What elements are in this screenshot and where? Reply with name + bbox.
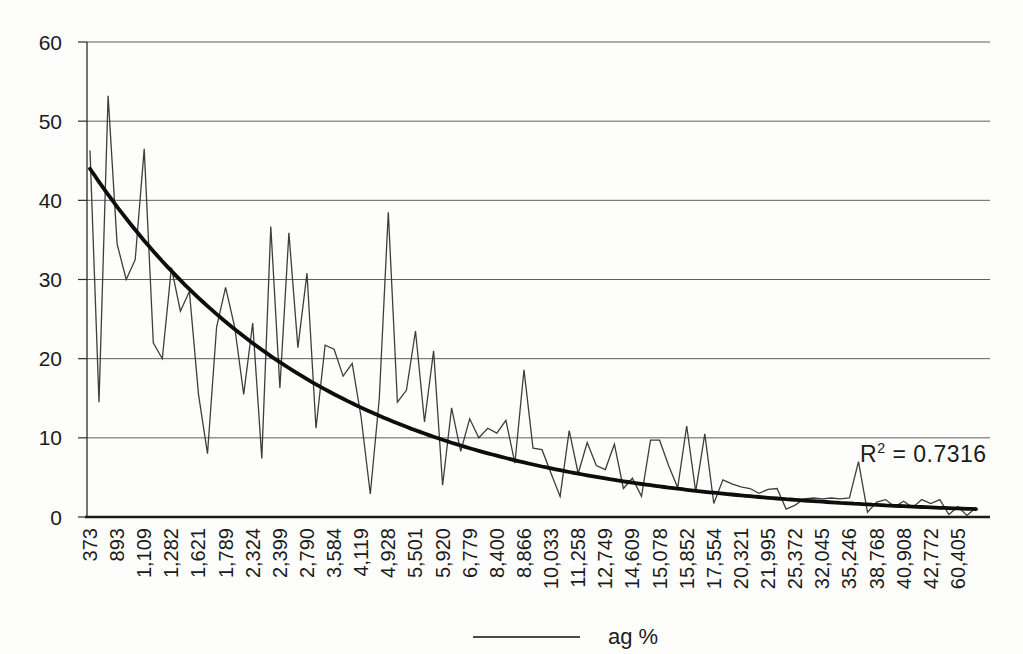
x-tick-label-373: 373 — [79, 528, 101, 561]
y-tick-label-50: 50 — [39, 110, 62, 133]
x-tick-label-1789: 1,789 — [215, 528, 237, 578]
y-tick-label-30: 30 — [39, 268, 62, 291]
y-tick-label-40: 40 — [39, 189, 62, 212]
x-tick-label-2790: 2,790 — [296, 528, 318, 578]
r-squared-annotation: R2 = 0.7316 — [860, 441, 987, 468]
x-tick-label-4928: 4,928 — [377, 528, 399, 578]
r-squared-value: 0.7316 — [913, 441, 986, 467]
x-tick-label-893: 893 — [106, 528, 128, 561]
x-tick-label-2399: 2,399 — [269, 528, 291, 578]
x-tick-label-3584: 3,584 — [323, 528, 345, 578]
x-tick-label-25372: 25,372 — [784, 528, 806, 589]
y-tick-label-10: 10 — [39, 426, 62, 449]
chart-canvas: 01020304050603738931,1091,2821,6211,7892… — [0, 0, 1023, 654]
legend-series-label: ag % — [608, 624, 658, 650]
x-tick-label-6779: 6,779 — [459, 528, 481, 578]
x-tick-label-5920: 5,920 — [432, 528, 454, 578]
x-tick-label-8400: 8,400 — [486, 528, 508, 578]
x-tick-label-42772: 42,772 — [920, 528, 942, 589]
x-tick-label-20321: 20,321 — [730, 528, 752, 589]
x-tick-label-38768: 38,768 — [866, 528, 888, 589]
x-tick-label-11258: 11,258 — [567, 528, 589, 588]
series-line-ag — [90, 96, 976, 516]
x-tick-label-5501: 5,501 — [404, 528, 426, 578]
r-squared-symbol: R — [860, 441, 877, 467]
x-tick-label-10033: 10,033 — [540, 528, 562, 589]
x-tick-label-17554: 17,554 — [703, 528, 725, 589]
x-tick-label-2324: 2,324 — [242, 528, 264, 578]
y-tick-label-0: 0 — [50, 506, 62, 529]
x-tick-label-15852: 15,852 — [676, 528, 698, 589]
x-tick-label-8866: 8,866 — [513, 528, 535, 578]
x-tick-label-1282: 1,282 — [160, 528, 182, 578]
r-squared-equals: = — [886, 441, 914, 467]
x-tick-label-4119: 4,119 — [350, 528, 372, 577]
trend-line — [90, 169, 976, 509]
chart-figure: 01020304050603738931,1091,2821,6211,7892… — [0, 0, 1023, 654]
x-tick-label-15078: 15,078 — [649, 528, 671, 589]
x-tick-label-60405: 60,405 — [947, 528, 969, 589]
legend-line-sample — [473, 636, 580, 638]
r-squared-exponent: 2 — [877, 440, 885, 456]
x-tick-label-35246: 35,246 — [838, 528, 860, 589]
x-tick-label-40908: 40,908 — [893, 528, 915, 589]
y-tick-label-20: 20 — [39, 347, 62, 370]
x-tick-label-12749: 12,749 — [594, 528, 616, 589]
x-tick-label-14609: 14,609 — [621, 528, 643, 589]
y-tick-label-60: 60 — [39, 31, 62, 54]
x-tick-label-1109: 1,109 — [133, 528, 155, 578]
x-tick-label-32045: 32,045 — [811, 528, 833, 589]
x-tick-label-21995: 21,995 — [757, 528, 779, 589]
legend: ag % — [473, 622, 658, 652]
x-tick-label-1621: 1,621 — [187, 528, 209, 578]
